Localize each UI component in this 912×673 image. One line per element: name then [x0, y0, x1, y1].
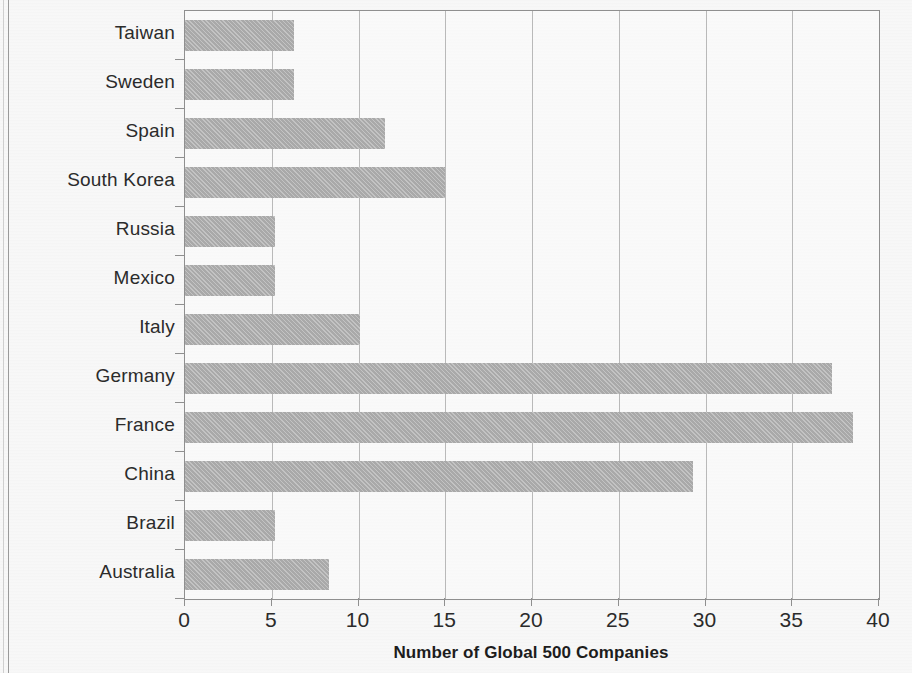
x-axis-tick-label-25: 25	[588, 608, 648, 632]
x-axis-title: Number of Global 500 Companies	[184, 643, 878, 663]
bar-row	[185, 158, 879, 207]
bar-row	[185, 452, 879, 501]
y-axis-label-south-korea: South Korea	[0, 169, 175, 191]
y-axis-label-taiwan: Taiwan	[0, 22, 175, 44]
bar-mexico[interactable]	[185, 265, 275, 296]
x-axis-tick-label-20: 20	[501, 608, 561, 632]
y-axis-tick	[175, 549, 184, 550]
bar-spain[interactable]	[185, 118, 385, 149]
bar-row	[185, 354, 879, 403]
x-axis-tick-label-15: 15	[414, 608, 474, 632]
y-axis-tick	[175, 157, 184, 158]
bar-russia[interactable]	[185, 216, 275, 247]
y-axis-tick	[175, 59, 184, 60]
chart-page: TaiwanSwedenSpainSouth KoreaRussiaMexico…	[0, 0, 912, 673]
x-axis-tick	[705, 598, 706, 606]
bar-taiwan[interactable]	[185, 20, 294, 51]
bar-france[interactable]	[185, 412, 853, 443]
x-axis-tick-labels: 0510152025303540	[0, 608, 912, 638]
y-axis-label-brazil: Brazil	[0, 512, 175, 534]
plot-area	[184, 10, 880, 600]
y-axis-label-mexico: Mexico	[0, 267, 175, 289]
y-axis-label-france: France	[0, 414, 175, 436]
bar-row	[185, 109, 879, 158]
bar-china[interactable]	[185, 461, 693, 492]
x-axis-tick	[878, 598, 879, 606]
bar-italy[interactable]	[185, 314, 360, 345]
x-axis-tick-label-30: 30	[675, 608, 735, 632]
y-axis-label-china: China	[0, 463, 175, 485]
y-axis-label-russia: Russia	[0, 218, 175, 240]
y-axis-tick	[175, 500, 184, 501]
bar-south-korea[interactable]	[185, 167, 445, 198]
x-axis-tick-label-5: 5	[241, 608, 301, 632]
x-axis-tick-label-40: 40	[848, 608, 908, 632]
y-axis-tick	[175, 304, 184, 305]
bar-brazil[interactable]	[185, 510, 275, 541]
x-axis-tick	[791, 598, 792, 606]
bar-row	[185, 403, 879, 452]
y-axis-tick	[175, 108, 184, 109]
y-axis-tick	[175, 402, 184, 403]
bar-germany[interactable]	[185, 363, 832, 394]
bar-row	[185, 550, 879, 599]
y-axis-labels: TaiwanSwedenSpainSouth KoreaRussiaMexico…	[0, 10, 175, 598]
y-axis-tick	[175, 255, 184, 256]
y-axis-label-sweden: Sweden	[0, 71, 175, 93]
bar-row	[185, 501, 879, 550]
x-axis-tick-label-0: 0	[154, 608, 214, 632]
x-axis-tick	[358, 598, 359, 606]
y-axis-label-australia: Australia	[0, 561, 175, 583]
x-axis-tick	[618, 598, 619, 606]
bar-row	[185, 256, 879, 305]
x-axis-tick	[444, 598, 445, 606]
x-axis-tick-label-35: 35	[761, 608, 821, 632]
y-axis-label-spain: Spain	[0, 120, 175, 142]
bar-row	[185, 207, 879, 256]
bar-sweden[interactable]	[185, 69, 294, 100]
bar-row	[185, 305, 879, 354]
x-axis-tick	[271, 598, 272, 606]
y-axis-tick	[175, 353, 184, 354]
x-axis-ticks	[184, 598, 878, 606]
bar-australia[interactable]	[185, 559, 329, 590]
y-axis-label-germany: Germany	[0, 365, 175, 387]
bar-row	[185, 11, 879, 60]
y-axis-tick	[175, 598, 184, 599]
y-axis-tick	[175, 451, 184, 452]
bar-row	[185, 60, 879, 109]
x-axis-tick	[531, 598, 532, 606]
y-axis-tick	[175, 206, 184, 207]
x-axis-tick	[184, 598, 185, 606]
x-axis-tick-label-10: 10	[328, 608, 388, 632]
y-axis-label-italy: Italy	[0, 316, 175, 338]
